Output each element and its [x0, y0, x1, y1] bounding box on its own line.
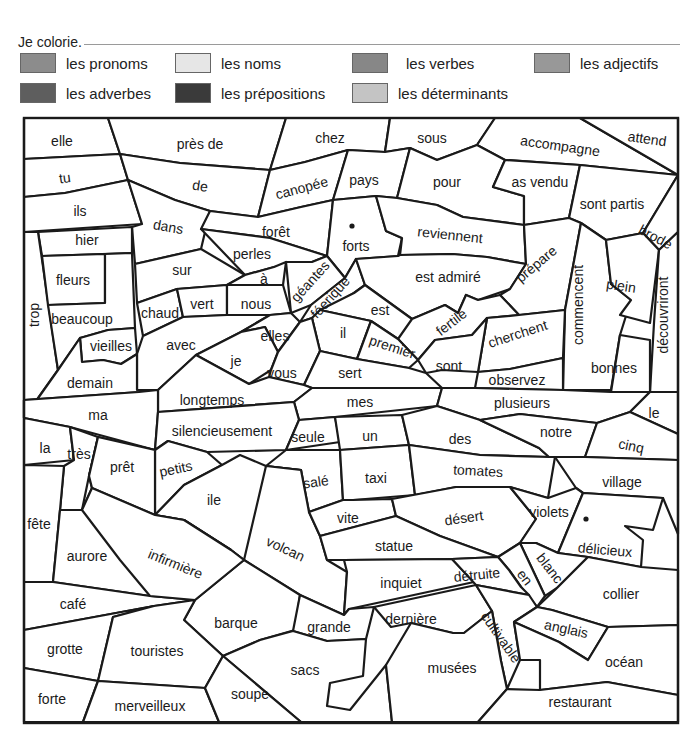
cell-elle[interactable] [24, 118, 120, 159]
puzzle-canvas: elleprès dechezsousaccompagneattendtudec… [0, 0, 697, 744]
cell-merveilleux[interactable] [83, 681, 219, 722]
cell-taxi[interactable] [340, 445, 415, 500]
dot-marker [349, 223, 354, 228]
cell-vert[interactable] [177, 285, 227, 317]
puzzle-cells [24, 118, 678, 722]
dot-marker [583, 516, 588, 521]
cell-hier[interactable] [38, 227, 132, 256]
cell-nous[interactable] [227, 285, 291, 315]
cell-fleurs[interactable] [42, 254, 105, 305]
